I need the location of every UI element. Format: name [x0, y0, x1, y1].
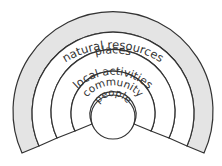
- label-places: places: [93, 43, 132, 58]
- concentric-rings-diagram: natural resources places local activitie…: [0, 0, 222, 166]
